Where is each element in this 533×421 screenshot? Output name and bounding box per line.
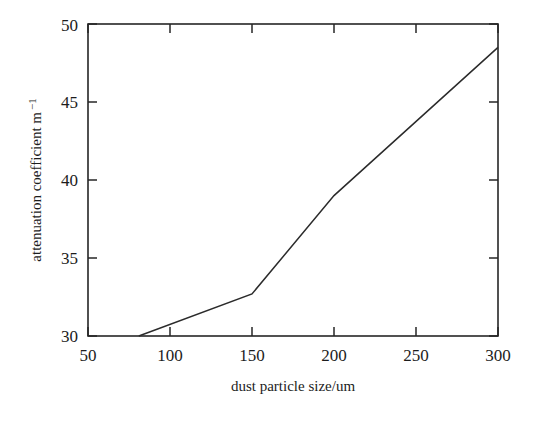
x-tick-label-50: 50	[80, 346, 97, 365]
line-chart: 30 35 40 45 50 50 100 150 200 250 300 du…	[0, 0, 533, 421]
y-axis-ticks	[88, 24, 97, 336]
y-axis-title: attenuation coefficient m	[28, 112, 44, 262]
x-axis-title: dust particle size/um	[231, 378, 355, 394]
x-tick-label-250: 250	[403, 346, 429, 365]
x-tick-label-150: 150	[239, 346, 265, 365]
x-tick-label-100: 100	[157, 346, 183, 365]
y-tick-label-40: 40	[61, 171, 78, 190]
data-series-line	[139, 47, 498, 336]
x-tick-labels: 50 100 150 200 250 300	[80, 346, 511, 365]
y-tick-label-35: 35	[61, 249, 78, 268]
plot-frame	[88, 24, 498, 336]
x-tick-label-300: 300	[485, 346, 511, 365]
y-tick-labels: 30 35 40 45 50	[61, 16, 78, 346]
y-axis-title-exponent: −1	[26, 98, 38, 110]
chart-figure: 30 35 40 45 50 50 100 150 200 250 300 du…	[0, 0, 533, 421]
y-tick-label-50: 50	[61, 16, 78, 35]
svg-text:attenuation coefficient m−1: attenuation coefficient m−1	[26, 98, 44, 261]
x-axis-top-ticks	[88, 24, 498, 33]
y-tick-label-45: 45	[61, 93, 78, 112]
y-axis-right-ticks	[489, 24, 498, 336]
y-tick-label-30: 30	[61, 327, 78, 346]
x-tick-label-200: 200	[321, 346, 347, 365]
y-axis-title-group: attenuation coefficient m−1	[26, 98, 44, 261]
